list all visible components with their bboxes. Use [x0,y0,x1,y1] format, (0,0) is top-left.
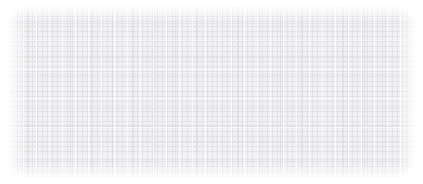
screen-canvas [0,0,423,184]
grid-highlight-lines-layer [7,6,416,178]
grid-placeholder-panel [7,6,416,178]
